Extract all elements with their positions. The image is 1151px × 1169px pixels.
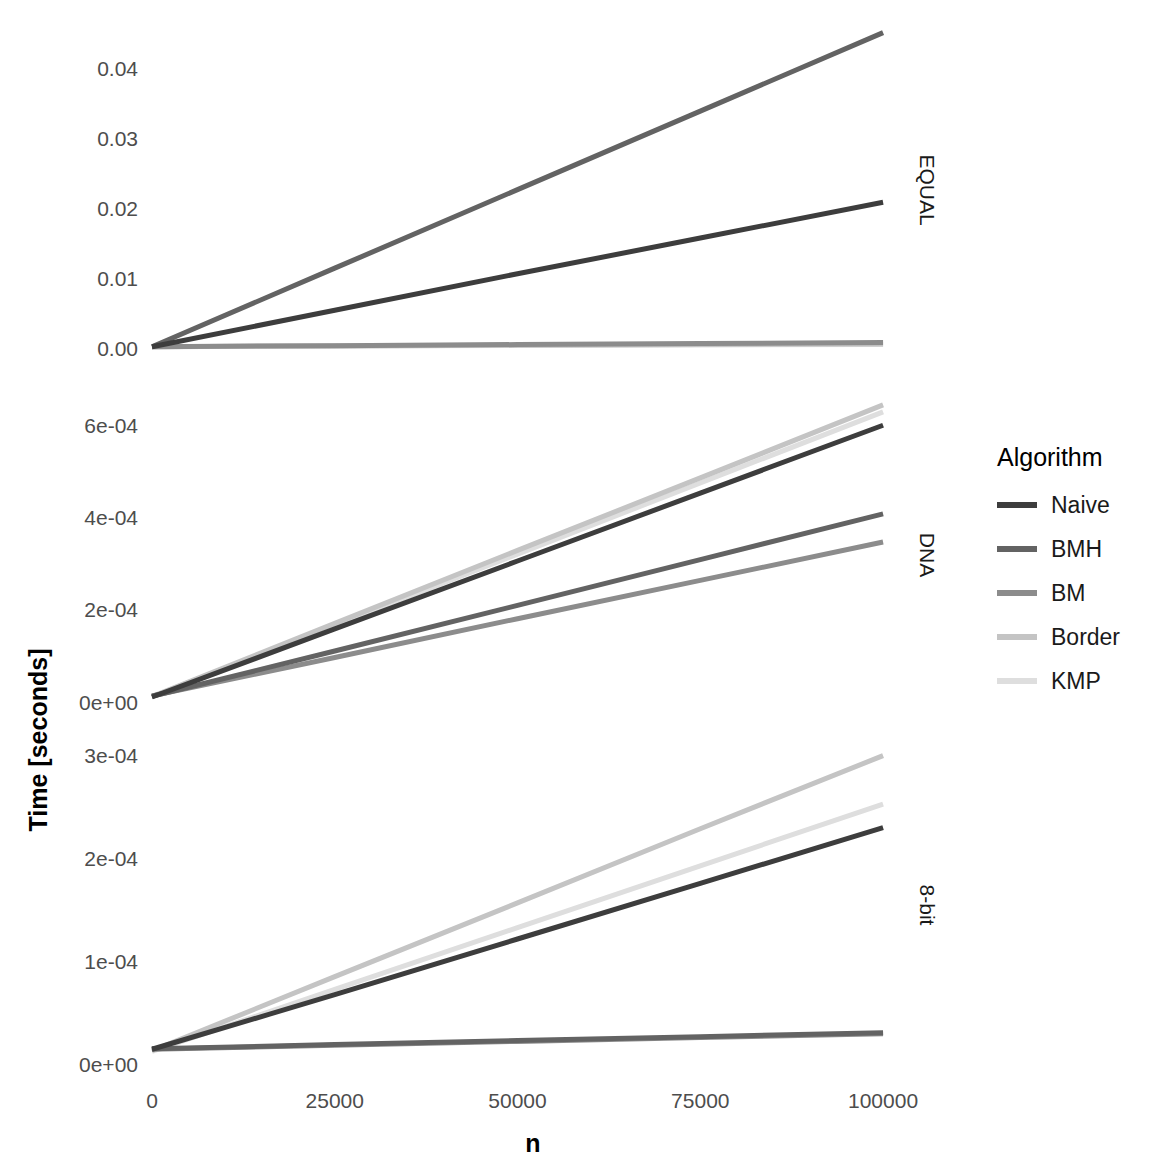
y-tick-label: 0.03 bbox=[97, 127, 138, 150]
legend-item-naive[interactable]: Naive bbox=[993, 483, 1143, 521]
facet-strip-label: DNA bbox=[916, 533, 939, 577]
y-axis-title: Time [seconds] bbox=[24, 649, 52, 832]
legend-item-kmp[interactable]: KMP bbox=[993, 659, 1143, 697]
legend-label-bmh: BMH bbox=[1051, 536, 1102, 562]
y-tick-label: 0.02 bbox=[97, 197, 138, 220]
legend-label-border: Border bbox=[1051, 624, 1120, 650]
x-tick-label: 100000 bbox=[848, 1089, 918, 1112]
y-tick-label: 0e+00 bbox=[79, 691, 138, 714]
legend-label-bm: BM bbox=[1051, 580, 1086, 606]
y-tick-label: 0.01 bbox=[97, 267, 138, 290]
legend-label-naive: Naive bbox=[1051, 492, 1110, 518]
y-tick-label: 4e-04 bbox=[84, 506, 138, 529]
y-tick-label: 2e-04 bbox=[84, 598, 138, 621]
x-tick-label: 75000 bbox=[671, 1089, 729, 1112]
faceted-line-chart: 0.000.010.020.030.04EQUAL0e+002e-044e-04… bbox=[0, 0, 1151, 1169]
y-tick-label: 0.00 bbox=[97, 337, 138, 360]
y-tick-label: 6e-04 bbox=[84, 414, 138, 437]
legend-title: Algorithm bbox=[997, 443, 1103, 471]
y-tick-label: 3e-04 bbox=[84, 744, 138, 767]
y-tick-label: 0.04 bbox=[97, 57, 138, 80]
legend-item-bmh[interactable]: BMH bbox=[993, 527, 1143, 565]
y-tick-label: 1e-04 bbox=[84, 950, 138, 973]
x-tick-label: 0 bbox=[146, 1089, 158, 1112]
chart-background bbox=[0, 0, 1151, 1169]
x-tick-label: 50000 bbox=[488, 1089, 546, 1112]
legend-item-bm[interactable]: BM bbox=[993, 571, 1143, 609]
chart-root: 0.000.010.020.030.04EQUAL0e+002e-044e-04… bbox=[0, 0, 1151, 1169]
facet-strip-label: 8-bit bbox=[916, 885, 939, 926]
facet-strip-label: EQUAL bbox=[916, 154, 939, 225]
x-tick-label: 25000 bbox=[306, 1089, 364, 1112]
legend-item-border[interactable]: Border bbox=[993, 615, 1143, 653]
x-axis-title: n bbox=[525, 1129, 540, 1157]
y-tick-label: 0e+00 bbox=[79, 1053, 138, 1076]
legend-label-kmp: KMP bbox=[1051, 668, 1101, 694]
y-tick-label: 2e-04 bbox=[84, 847, 138, 870]
